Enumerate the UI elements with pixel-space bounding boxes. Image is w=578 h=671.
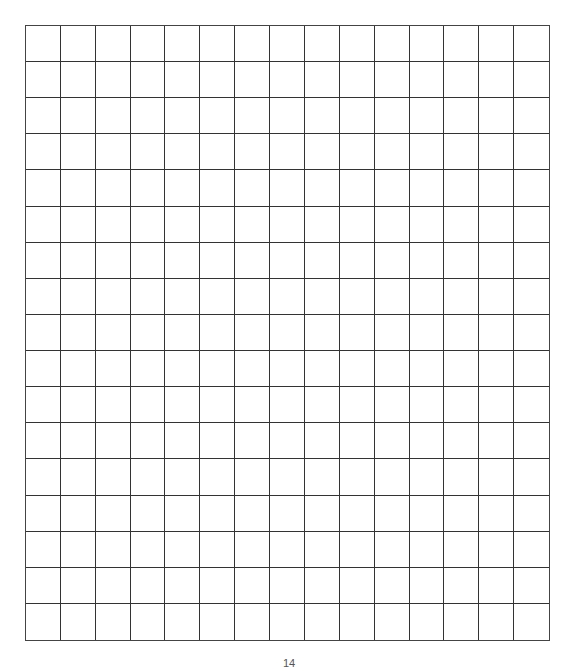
grid-cell — [305, 279, 340, 315]
grid-cell — [444, 134, 479, 170]
grid-cell — [96, 170, 131, 206]
grid-cell — [235, 568, 270, 604]
grid-cell — [340, 387, 375, 423]
grid-cell — [375, 423, 410, 459]
grid-cell — [375, 62, 410, 98]
grid-cell — [61, 279, 96, 315]
grid-cell — [26, 496, 61, 532]
grid-cell — [305, 315, 340, 351]
grid-cell — [410, 134, 445, 170]
grid-cell — [200, 351, 235, 387]
grid-cell — [26, 315, 61, 351]
grid-cell — [96, 532, 131, 568]
grid-cell — [131, 134, 166, 170]
grid-cell — [340, 26, 375, 62]
grid-cell — [131, 279, 166, 315]
grid-cell — [96, 423, 131, 459]
grid-cell — [340, 496, 375, 532]
grid-cell — [96, 496, 131, 532]
grid-cell — [61, 98, 96, 134]
grid-cell — [479, 604, 514, 640]
grid-cell — [444, 26, 479, 62]
grid-cell — [514, 134, 549, 170]
grid-cell — [375, 207, 410, 243]
grid-cell — [479, 98, 514, 134]
grid-cell — [270, 207, 305, 243]
grid-cell — [165, 134, 200, 170]
grid-cell — [444, 62, 479, 98]
grid-cell — [26, 207, 61, 243]
grid-cell — [270, 604, 305, 640]
grid-cell — [444, 170, 479, 206]
grid-cell — [340, 568, 375, 604]
grid-cell — [340, 62, 375, 98]
grid-cell — [165, 315, 200, 351]
grid-cell — [165, 279, 200, 315]
grid-cell — [61, 568, 96, 604]
grid-cell — [305, 134, 340, 170]
grid-cell — [165, 496, 200, 532]
grid-cell — [200, 26, 235, 62]
grid-cell — [200, 98, 235, 134]
grid-cell — [26, 279, 61, 315]
grid-cell — [340, 459, 375, 495]
grid-cell — [410, 459, 445, 495]
grid-cell — [235, 26, 270, 62]
grid-cell — [26, 243, 61, 279]
grid-cell — [479, 134, 514, 170]
grid-cell — [165, 26, 200, 62]
grid-cell — [375, 26, 410, 62]
grid-cell — [200, 315, 235, 351]
grid-cell — [200, 243, 235, 279]
grid-cell — [26, 351, 61, 387]
grid-cell — [61, 423, 96, 459]
grid-cell — [131, 62, 166, 98]
grid-cell — [61, 62, 96, 98]
grid-cell — [96, 134, 131, 170]
grid-cell — [375, 604, 410, 640]
grid-cell — [514, 459, 549, 495]
grid-cell — [270, 279, 305, 315]
grid-cell — [131, 351, 166, 387]
grid-cell — [61, 134, 96, 170]
grid-cell — [61, 207, 96, 243]
grid-cell — [514, 604, 549, 640]
grid-cell — [131, 26, 166, 62]
grid-cell — [61, 496, 96, 532]
grid-cell — [305, 243, 340, 279]
grid-cell — [305, 459, 340, 495]
grid-cell — [410, 604, 445, 640]
grid-cell — [340, 532, 375, 568]
grid-cell — [26, 387, 61, 423]
grid-cell — [340, 315, 375, 351]
grid-cell — [479, 532, 514, 568]
grid-cell — [305, 568, 340, 604]
grid-cell — [235, 98, 270, 134]
grid-cell — [410, 423, 445, 459]
grid-cell — [235, 459, 270, 495]
grid-cell — [479, 279, 514, 315]
grid-cell — [61, 604, 96, 640]
grid-cell — [410, 351, 445, 387]
grid-cell — [375, 315, 410, 351]
grid-cell — [270, 134, 305, 170]
grid-cell — [340, 604, 375, 640]
grid-cell — [340, 423, 375, 459]
grid-cell — [514, 351, 549, 387]
grid-cell — [165, 387, 200, 423]
grid-cell — [131, 207, 166, 243]
grid-cell — [444, 496, 479, 532]
grid-cell — [96, 387, 131, 423]
grid-cell — [444, 279, 479, 315]
grid-cell — [235, 207, 270, 243]
grid-cell — [61, 459, 96, 495]
grid-cell — [26, 170, 61, 206]
grid-cell — [235, 532, 270, 568]
page-number: 14 — [0, 656, 578, 670]
grid-cell — [479, 568, 514, 604]
grid-cell — [444, 423, 479, 459]
grid-cell — [514, 496, 549, 532]
grid-cell — [479, 423, 514, 459]
grid-cell — [235, 279, 270, 315]
grid-cell — [270, 98, 305, 134]
